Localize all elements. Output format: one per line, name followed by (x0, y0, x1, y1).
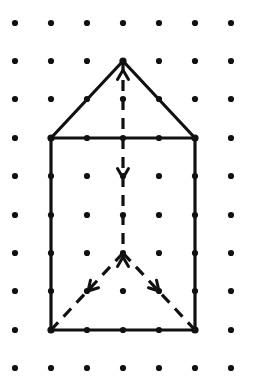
grid-dot-r9-c5 (192, 365, 198, 371)
grid-dot-r5-c4 (156, 212, 162, 218)
roof-right-slope (123, 61, 195, 138)
grid-dot-r1-c1 (48, 58, 54, 64)
grid-dot-r1-c4 (156, 58, 162, 64)
grid-dot-r9-c3 (120, 365, 126, 371)
figure-canvas (0, 0, 273, 384)
vertex-base-left (47, 326, 54, 333)
vertex-base-right (191, 326, 198, 333)
grid-dot-r8-c0 (12, 327, 18, 333)
grid-dot-r2-c5 (192, 96, 198, 102)
grid-dot-r6-c0 (12, 250, 18, 256)
grid-dot-r0-c4 (156, 20, 162, 26)
vertex-roof-left-eave (47, 134, 54, 141)
roof-left-slope (51, 61, 123, 138)
grid-dot-r9-c4 (156, 365, 162, 371)
grid-dot-r1-c2 (84, 58, 90, 64)
grid-dot-r6-c4 (156, 250, 162, 256)
grid-dot-r0-c6 (228, 20, 234, 26)
grid-dot-r2-c0 (12, 96, 18, 102)
grid-dot-r4-c2 (84, 173, 90, 179)
grid-dot-r0-c2 (84, 20, 90, 26)
grid-dot-r1-c5 (192, 58, 198, 64)
grid-dot-r5-c0 (12, 212, 18, 218)
grid-dot-r4-c4 (156, 173, 162, 179)
grid-dot-r4-c6 (228, 173, 234, 179)
grid-dot-r0-c0 (12, 20, 18, 26)
grid-dot-r7-c0 (12, 288, 18, 294)
grid-dot-r1-c0 (12, 58, 18, 64)
grid-dot-r9-c0 (12, 365, 18, 371)
geometry-diagram (0, 0, 273, 384)
grid-dot-r9-c1 (48, 365, 54, 371)
grid-dot-r2-c1 (48, 96, 54, 102)
arrow-up-at-apex (118, 70, 129, 80)
grid-dot-r5-c6 (228, 212, 234, 218)
grid-dot-r1-c6 (228, 58, 234, 64)
grid-dot-r6-c2 (84, 250, 90, 256)
grid-dot-r0-c3 (120, 20, 126, 26)
grid-dot-r8-c6 (228, 327, 234, 333)
grid-dot-r6-c6 (228, 250, 234, 256)
grid-dot-r4-c0 (12, 173, 18, 179)
grid-dot-r3-c0 (12, 135, 18, 141)
grid-dot-r0-c1 (48, 20, 54, 26)
grid-dot-r3-c6 (228, 135, 234, 141)
grid-dot-r0-c5 (192, 20, 198, 26)
grid-dot-r9-c2 (84, 365, 90, 371)
grid-dot-r7-c6 (228, 288, 234, 294)
vertex-roof-apex (119, 57, 126, 64)
grid-dot-r7-c3 (120, 288, 126, 294)
grid-dot-r9-c6 (228, 365, 234, 371)
grid-dot-r2-c6 (228, 96, 234, 102)
vertex-roof-right-eave (191, 134, 198, 141)
grid-dot-r5-c2 (84, 212, 90, 218)
